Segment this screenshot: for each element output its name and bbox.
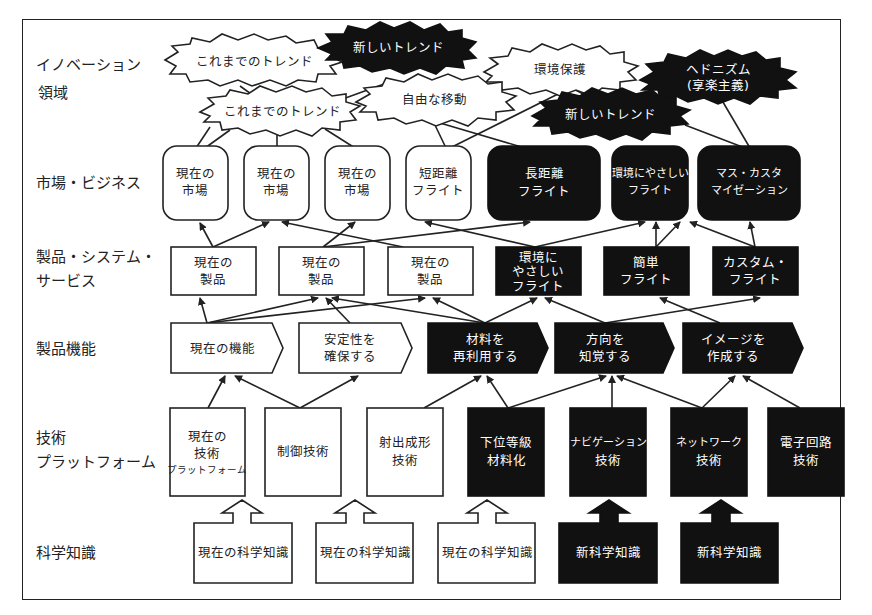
product-label-line1: カスタム・ [723,255,788,270]
tech-label-line1: 現在の [188,429,227,444]
burst-hedonism: ヘドニズム (享楽主義) [640,50,796,104]
tech-label-line1: 電子回路 [780,435,832,450]
row-label-product-2: サービス [36,272,96,290]
market-label-line1: 現在の [257,166,296,181]
burst-trend-old-2: これまでのトレンド [200,86,360,136]
market-label-line2: 市場 [263,183,289,198]
burst-trend-new-1: 新しいトレンド [318,22,476,74]
row-label-innovation-1: イノベーション [36,56,141,74]
product-label-line2: 製品 [308,272,334,287]
product-eco-flight: 環境に やさしい フライト [496,247,581,295]
burst-label-line2: (享楽主義) [687,78,749,93]
tech-label-line1: 下位等級 [480,435,532,450]
tech-label-line1: 射出成形 [379,435,431,450]
burst-label: 自由な移動 [402,92,467,107]
science-current-1: 現在の科学知識 [194,500,292,583]
burst-trend-old-1: これまでのトレンド [165,34,342,86]
product-label-line1: 現在の [194,255,233,270]
market-label-line2: マイゼーション [711,184,788,197]
function-label-line2: 再利用する [453,349,518,364]
function-label-line1: イメージを [701,332,766,347]
product-label-line2: 製品 [200,272,226,287]
tech-electronic-circuit: 電子回路 技術 [768,408,844,496]
technology-row: 現在の 技術 プラットフォーム 制御技術 射出成形 技術 下位等級 材料化 ナビ… [167,408,844,496]
product-label-line2: やさしい [512,264,564,279]
burst-label: 新しいトレンド [565,107,656,122]
market-label-line2: 市場 [344,183,370,198]
row-label-product-1: 製品・システム・ [36,248,156,266]
function-label-line2: 作成する [707,349,759,364]
function-label-line2: 確保する [324,349,376,364]
market-label-line2: フライト [412,183,464,198]
function-label-line1: 安定性を [324,332,376,347]
science-current-2: 現在の科学知識 [316,500,413,583]
tech-current-platform: 現在の 技術 プラットフォーム [167,408,247,496]
science-label: 現在の科学知識 [198,545,289,560]
science-label: 新科学知識 [697,545,762,560]
burst-label: 環境保護 [534,62,586,77]
market-label-line2: フライト [628,184,672,197]
market-current-1: 現在の 市場 [163,146,228,220]
row-label-market: 市場・ビジネス [36,174,141,192]
science-label: 現在の科学知識 [442,545,533,560]
product-current-1: 現在の 製品 [171,247,256,295]
product-market-arrows [200,222,755,247]
market-label-line1: 現在の [176,166,215,181]
market-label-line1: 現在の [338,166,377,181]
tech-label-line2: 技術 [793,453,819,468]
tech-navigation: ナビゲーション 技術 [570,408,647,496]
tech-label-line2: 材料化 [487,453,526,468]
tech-network: ネットワーク 技術 [671,408,747,496]
product-label-line2: フライト [620,272,672,287]
product-current-2: 現在の 製品 [279,247,364,295]
row-label-technology-1: 技術 [36,429,66,447]
product-label-line2: 製品 [417,272,443,287]
science-new-1: 新科学知識 [559,500,657,583]
market-short-flight: 短距離 フライト [406,146,471,220]
science-current-3: 現在の科学知識 [438,500,535,583]
tech-injection-molding: 射出成形 技術 [367,408,443,496]
tech-label-line3: プラットフォーム [167,464,247,475]
market-label-line1: 環境にやさしい [612,166,689,180]
function-perceive-direction: 方向を 知覚する [555,323,674,373]
row-label-technology-2: プラットフォーム [36,453,156,471]
market-current-3: 現在の 市場 [325,146,390,220]
product-custom-flight: カスタム・ フライト [713,247,798,295]
function-reuse-material: 材料を 再利用する [428,323,548,373]
technology-function-arrows [208,376,800,408]
tech-label-line2: 技術 [392,453,418,468]
product-label-line1: 環境に [519,250,558,265]
product-current-3: 現在の 製品 [388,247,473,295]
tech-control: 制御技術 [265,408,341,496]
product-easy-flight: 簡単 フライト [604,247,689,295]
science-new-2: 新科学知識 [681,500,778,583]
tech-label-line2: 技術 [194,446,220,461]
market-label-line2: 市場 [182,183,208,198]
product-label-line1: 簡単 [633,255,659,270]
innovation-roadmap-diagram: イノベーション 領域 市場・ビジネス 製品・システム・ サービス 製品機能 技術… [0,0,872,615]
row-label-science: 科学知識 [36,544,96,562]
function-current: 現在の機能 [171,323,283,373]
product-label-line2: フライト [729,272,781,287]
burst-env-protection: 環境保護 [484,44,638,96]
tech-label-line2: 技術 [696,453,722,468]
function-row: 現在の機能 安定性を 確保する 材料を 再利用する 方向を 知覚する イメージを… [171,323,803,373]
function-product-arrows [200,298,760,323]
tech-downgrade-material: 下位等級 材料化 [468,408,544,496]
product-label-line3: フライト [512,279,564,294]
market-mass-customization: マス・カスタ マイゼーション [698,146,800,220]
market-label-line1: マス・カスタ [716,167,782,180]
tech-label-line2: 技術 [595,453,621,468]
burst-label-line1: ヘドニズム [686,62,751,77]
product-label-line1: 現在の [302,255,341,270]
function-label-line1: 方向を [586,332,625,347]
tech-label-line1: 制御技術 [277,444,329,459]
product-row: 現在の 製品 現在の 製品 現在の 製品 環境に やさしい フライト 簡単 フラ… [171,247,798,295]
burst-label: これまでのトレンド [224,104,341,119]
row-label-innovation-2: 領域 [38,84,68,102]
market-label-line1: 短距離 [419,166,458,181]
science-label: 新科学知識 [576,545,641,560]
market-eco-flight: 環境にやさしい フライト [612,146,689,220]
burst-label: これまでのトレンド [196,54,313,69]
row-label-function: 製品機能 [36,340,96,358]
